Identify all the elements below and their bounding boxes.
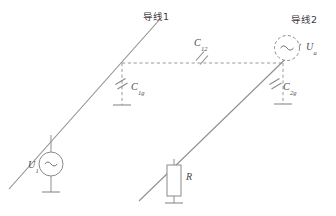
resistor-r-branch — [165, 159, 183, 203]
conductor-1-line — [9, 18, 161, 189]
ground-capacitor-2-symbol — [270, 79, 282, 90]
source-ua-symbol — [275, 36, 300, 61]
ground-capacitor-1-symbol — [116, 79, 128, 90]
source-u1-branch — [39, 135, 63, 192]
circuit-diagram: 导线1 导线2 C12 C1g C2g U1 Ua R — [0, 0, 336, 216]
circuit-canvas — [0, 0, 336, 216]
conductor-2-line — [139, 44, 301, 201]
